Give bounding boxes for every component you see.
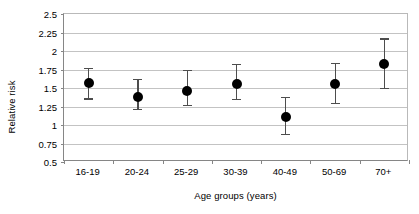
y-tick-label: 1.5 <box>44 83 57 94</box>
x-tick-label: 70+ <box>375 166 391 177</box>
x-tick-mark <box>113 160 114 164</box>
y-tick-mark <box>61 144 64 145</box>
error-bar-cap-upper <box>380 38 389 39</box>
error-bar-cap-upper <box>84 68 93 69</box>
error-bar-cap-upper <box>232 64 241 65</box>
gridline <box>64 107 407 108</box>
error-bar-cap-upper <box>183 70 192 71</box>
x-tick-mark <box>261 160 262 164</box>
error-bar-cap-lower <box>133 109 142 110</box>
y-tick-mark <box>61 51 64 52</box>
marker-dot <box>182 86 192 96</box>
plot-area: 0.50.7511.251.51.7522.252.5 <box>63 13 408 161</box>
error-bar-cap-lower <box>281 134 290 135</box>
y-tick-label: 2.5 <box>44 9 57 20</box>
x-tick-label: 25-29 <box>174 166 198 177</box>
error-bar-cap-lower <box>84 98 93 99</box>
y-tick-mark <box>61 88 64 89</box>
error-bar-cap-lower <box>183 105 192 106</box>
error-bar-cap-lower <box>380 88 389 89</box>
x-tick-mark <box>360 160 361 164</box>
x-tick-label: 50-69 <box>322 166 346 177</box>
gridline <box>64 125 407 126</box>
x-tick-mark <box>212 160 213 164</box>
x-axis-title: Age groups (years) <box>63 190 408 201</box>
marker-dot <box>379 59 389 69</box>
y-tick-label: 1 <box>52 120 57 131</box>
error-bar-cap-upper <box>331 63 340 64</box>
y-tick-label: 2 <box>52 46 57 57</box>
y-tick-label: 1.25 <box>39 101 58 112</box>
y-tick-label: 0.5 <box>44 157 57 168</box>
error-bar-cap-lower <box>232 99 241 100</box>
y-tick-mark <box>61 107 64 108</box>
x-tick-label: 40-49 <box>273 166 297 177</box>
y-tick-label: 2.25 <box>39 27 58 38</box>
marker-dot <box>281 112 291 122</box>
marker-dot <box>84 78 94 88</box>
y-tick-label: 1.75 <box>39 64 58 75</box>
y-axis-title: Relative risk <box>2 0 20 214</box>
gridline <box>64 33 407 34</box>
error-bar-cap-lower <box>331 103 340 104</box>
x-tick-mark <box>64 160 65 164</box>
x-tick-mark <box>409 160 410 164</box>
x-tick-mark <box>163 160 164 164</box>
x-tick-label: 30-39 <box>223 166 247 177</box>
error-bar-cap-upper <box>281 97 290 98</box>
x-tick-label: 16-19 <box>75 166 99 177</box>
marker-dot <box>133 92 143 102</box>
x-tick-mark <box>310 160 311 164</box>
y-tick-label: 0.75 <box>39 138 58 149</box>
gridline <box>64 144 407 145</box>
error-bar-cap-upper <box>133 79 142 80</box>
y-tick-mark <box>61 33 64 34</box>
marker-dot <box>232 79 242 89</box>
y-tick-mark <box>61 70 64 71</box>
y-tick-mark <box>61 14 64 15</box>
relative-risk-by-age-chart: Relative risk 0.50.7511.251.51.7522.252.… <box>0 0 419 214</box>
gridline <box>64 51 407 52</box>
y-tick-mark <box>61 125 64 126</box>
x-tick-label: 20-24 <box>125 166 149 177</box>
